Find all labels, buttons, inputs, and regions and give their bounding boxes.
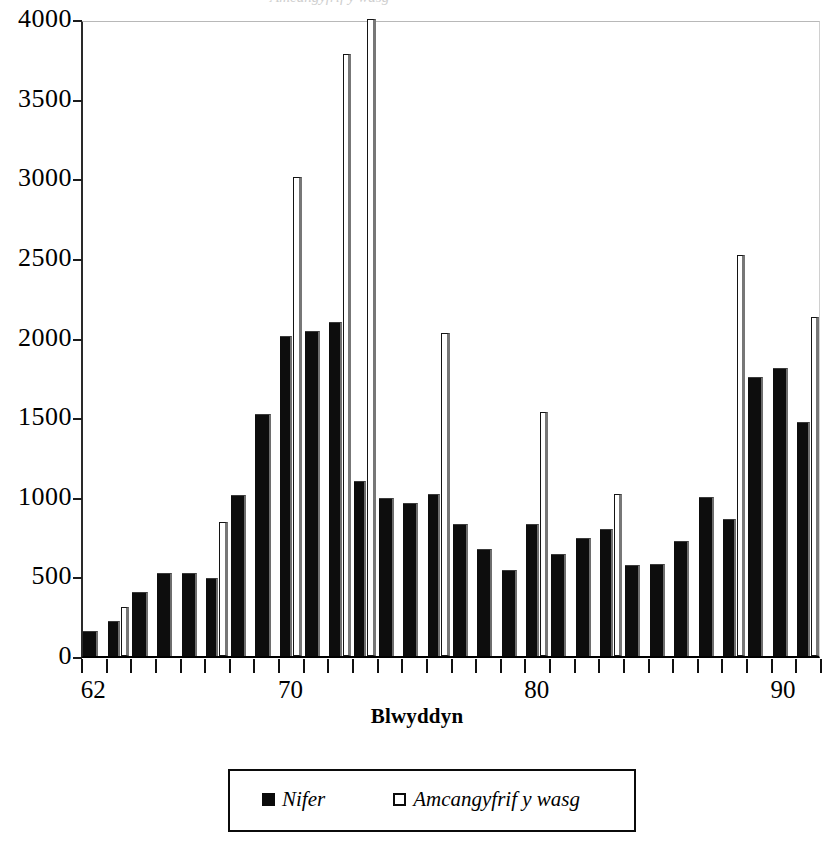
bar-nifer xyxy=(403,503,418,656)
clipped-top-caption: Amcangyfrif y wasg xyxy=(0,0,834,8)
x-axis-tick-label: 80 xyxy=(507,676,567,703)
x-axis-tick-label: 62 xyxy=(63,676,123,703)
x-axis-tick-mark xyxy=(303,659,305,673)
bar-nifer xyxy=(477,549,492,656)
bar-group xyxy=(526,19,551,656)
bar-nifer xyxy=(723,519,735,656)
x-axis-tick-mark xyxy=(697,659,699,673)
y-axis-tick-mark xyxy=(73,577,82,579)
bar-group xyxy=(674,19,699,656)
bar-group xyxy=(403,19,428,656)
x-axis-tick-mark xyxy=(229,659,231,673)
legend-label-nifer: Nifer xyxy=(282,787,325,812)
bar-nifer xyxy=(625,565,640,656)
y-axis-tick-label: 1000 xyxy=(18,484,72,510)
bar-group xyxy=(748,19,773,656)
bar-nifer xyxy=(650,564,665,656)
bar-amcangyfrif xyxy=(811,317,819,656)
bar-nifer xyxy=(132,592,147,656)
bar-nifer xyxy=(600,529,612,656)
bar-nifer xyxy=(379,498,394,656)
bar-group xyxy=(354,19,379,656)
bar-group xyxy=(551,19,576,656)
legend-swatch-open-icon xyxy=(393,793,406,806)
x-axis-tick-mark xyxy=(81,659,83,673)
bar-nifer xyxy=(108,621,120,656)
x-axis-tick-label: 90 xyxy=(753,676,813,703)
bar-group xyxy=(797,19,822,656)
bar-group xyxy=(182,19,207,656)
bars-layer xyxy=(83,22,819,656)
bar-amcangyfrif xyxy=(343,54,351,656)
legend-label-amcangyfrif: Amcangyfrif y wasg xyxy=(413,787,580,812)
x-axis-tick-mark xyxy=(549,659,551,673)
legend-entry-amcangyfrif: Amcangyfrif y wasg xyxy=(393,787,580,812)
legend-entry-nifer: Nifer xyxy=(262,787,325,812)
y-axis-tick-mark xyxy=(73,179,82,181)
x-axis-tick-mark xyxy=(204,659,206,673)
bar-group xyxy=(379,19,404,656)
bar-nifer xyxy=(526,524,538,656)
x-axis-tick-mark xyxy=(648,659,650,673)
x-axis-tick-mark xyxy=(180,659,182,673)
y-axis-tick-mark xyxy=(73,339,82,341)
bar-group xyxy=(600,19,625,656)
x-axis-tick-mark xyxy=(475,659,477,673)
y-axis-tick-label: 0 xyxy=(59,643,73,669)
bar-nifer xyxy=(428,494,440,656)
bar-group xyxy=(650,19,675,656)
bar-group xyxy=(502,19,527,656)
bar-group xyxy=(477,19,502,656)
x-axis-tick-mark xyxy=(426,659,428,673)
x-axis-tick-mark xyxy=(574,659,576,673)
x-axis-tick-mark xyxy=(377,659,379,673)
x-axis-tick-mark xyxy=(500,659,502,673)
bar-amcangyfrif xyxy=(219,522,227,656)
y-axis-tick-mark xyxy=(73,100,82,102)
x-axis-tick-mark xyxy=(327,659,329,673)
bar-group xyxy=(255,19,280,656)
bar-nifer xyxy=(206,578,218,656)
bar-amcangyfrif xyxy=(614,494,622,656)
bar-group xyxy=(280,19,305,656)
bar-group xyxy=(157,19,182,656)
bar-nifer xyxy=(329,322,341,656)
y-axis-tick-mark xyxy=(73,418,82,420)
bar-nifer xyxy=(773,368,788,656)
bar-nifer xyxy=(674,541,689,656)
x-axis-tick-mark xyxy=(278,659,280,673)
y-axis-tick-label: 500 xyxy=(32,563,73,589)
bar-group xyxy=(108,19,133,656)
x-axis-tick-mark xyxy=(155,659,157,673)
x-axis-title: Blwyddyn xyxy=(0,704,834,729)
legend-swatch-filled-icon xyxy=(262,793,275,806)
x-axis-tick-label: 70 xyxy=(260,676,320,703)
bar-amcangyfrif xyxy=(737,255,745,656)
bar-group xyxy=(206,19,231,656)
bar-nifer xyxy=(748,377,763,656)
bar-group xyxy=(428,19,453,656)
bar-amcangyfrif xyxy=(293,177,301,656)
y-axis-tick-mark xyxy=(73,657,82,659)
bar-nifer xyxy=(280,336,292,656)
bar-nifer xyxy=(576,538,591,656)
y-axis-tick-label: 2500 xyxy=(18,245,72,271)
y-axis-tick-label: 4000 xyxy=(18,6,72,32)
x-axis-tick-mark xyxy=(253,659,255,673)
y-axis-tick-label: 2000 xyxy=(18,325,72,351)
x-axis-tick-mark xyxy=(451,659,453,673)
bar-nifer xyxy=(157,573,172,656)
x-axis-tick-mark xyxy=(401,659,403,673)
bar-amcangyfrif xyxy=(540,412,548,656)
x-axis-tick-mark xyxy=(820,659,822,673)
bar-group xyxy=(773,19,798,656)
x-axis-tick-mark xyxy=(524,659,526,673)
x-axis-tick-mark xyxy=(106,659,108,673)
legend-row: Nifer Amcangyfrif y wasg xyxy=(230,787,634,812)
y-axis-tick-mark xyxy=(73,498,82,500)
bar-nifer xyxy=(255,414,270,656)
bar-group xyxy=(83,19,108,656)
bar-amcangyfrif xyxy=(121,607,129,656)
x-axis-tick-mark xyxy=(721,659,723,673)
bar-group xyxy=(453,19,478,656)
